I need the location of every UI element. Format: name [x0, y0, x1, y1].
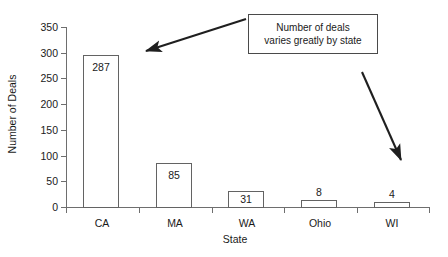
bar-value-ca: 287 [79, 62, 123, 73]
y-axis-tick-label-300: 300 [18, 48, 58, 59]
y-axis-tick-100 [61, 156, 66, 157]
y-axis-tick-label-0: 0 [18, 202, 58, 213]
x-axis-label-ca: CA [67, 218, 137, 229]
y-axis-tick-label-100: 100 [18, 151, 58, 162]
bar-ohio[interactable] [301, 200, 337, 208]
y-axis-title: Number of Deals [6, 59, 18, 169]
bar-chart-figure: 350 300 250 200 150 100 50 0 287 85 31 8… [0, 0, 448, 257]
bar-value-ma: 85 [152, 170, 196, 181]
bar-value-ohio: 8 [297, 187, 341, 198]
bar-wi[interactable] [374, 202, 410, 208]
y-axis-tick-label-200: 200 [18, 99, 58, 110]
y-axis-tick-label-50: 50 [18, 176, 58, 187]
y-axis-tick-250 [61, 78, 66, 79]
x-axis-label-ohio: Ohio [285, 218, 355, 229]
arrow-to-ca-bar [146, 19, 246, 51]
x-axis-tick-3 [284, 208, 285, 213]
x-axis-tick-4 [357, 208, 358, 213]
arrow-to-wi-bar [362, 72, 401, 160]
x-axis-tick-5 [429, 208, 430, 213]
bar-value-wa: 31 [224, 194, 268, 205]
annotation-line-2: varies greatly by state [264, 35, 361, 46]
y-axis-tick-350 [61, 27, 66, 28]
x-axis-label-wa: WA [212, 218, 282, 229]
annotation-line-1: Number of deals [276, 22, 349, 33]
y-axis-tick-200 [61, 104, 66, 105]
x-axis-label-ma: MA [140, 218, 210, 229]
x-axis-label-wi: WI [357, 218, 427, 229]
bar-value-wi: 4 [370, 189, 414, 200]
annotation-callout-text: Number of deals varies greatly by state [260, 21, 365, 48]
annotation-callout-box: Number of deals varies greatly by state [248, 14, 378, 54]
y-axis-tick-300 [61, 53, 66, 54]
y-axis-line [66, 27, 67, 208]
y-axis-tick-label-150: 150 [18, 125, 58, 136]
bar-ca[interactable] [83, 55, 119, 208]
x-axis-tick-2 [212, 208, 213, 213]
y-axis-tick-150 [61, 130, 66, 131]
y-axis-tick-label-350: 350 [18, 22, 58, 33]
y-axis-tick-50 [61, 181, 66, 182]
y-axis-tick-label-250: 250 [18, 73, 58, 84]
x-axis-tick-0 [66, 208, 67, 213]
x-axis-title: State [200, 233, 270, 245]
x-axis-tick-1 [139, 208, 140, 213]
